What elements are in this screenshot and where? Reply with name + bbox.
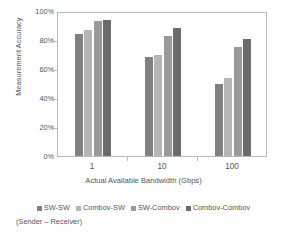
legend-swatch bbox=[37, 206, 42, 211]
x-tick-label: 1 bbox=[72, 162, 112, 171]
plot-area bbox=[57, 12, 267, 157]
legend-item: Combov-SW bbox=[76, 203, 125, 212]
bar bbox=[173, 28, 181, 156]
bar bbox=[84, 30, 92, 156]
legend-label: SW-SW bbox=[44, 203, 70, 212]
bar-group bbox=[75, 13, 112, 156]
bar bbox=[243, 39, 251, 156]
legend: SW-SWCombov-SWSW-CombovCombov-Combov bbox=[0, 203, 287, 212]
bar bbox=[164, 36, 172, 156]
y-tick-label: 20% bbox=[22, 123, 54, 132]
bar bbox=[103, 20, 111, 156]
bar-group bbox=[215, 13, 252, 156]
bar-chart-figure: Measurement Accuracy 0%20%40%60%80%100% … bbox=[0, 0, 287, 241]
bar bbox=[145, 57, 153, 156]
bar bbox=[224, 78, 232, 156]
x-tick-mark bbox=[197, 157, 198, 161]
x-tick-label: 10 bbox=[142, 162, 182, 171]
bar bbox=[215, 84, 223, 157]
legend-label: Combov-Combov bbox=[193, 203, 251, 212]
bar bbox=[154, 55, 162, 157]
y-tick-label: 60% bbox=[22, 65, 54, 74]
legend-item: Combov-Combov bbox=[186, 203, 251, 212]
legend-label: Combov-SW bbox=[83, 203, 125, 212]
x-axis-title: Actual Available Bandwidth (Gbps) bbox=[0, 176, 287, 185]
legend-label: SW-Combov bbox=[138, 203, 180, 212]
bar bbox=[75, 34, 83, 156]
x-tick-label: 100 bbox=[212, 162, 252, 171]
legend-item: SW-Combov bbox=[131, 203, 180, 212]
y-tick-label: 40% bbox=[22, 94, 54, 103]
legend-item: SW-SW bbox=[37, 203, 70, 212]
y-tick-label: 100% bbox=[22, 7, 54, 16]
bar-group bbox=[145, 13, 182, 156]
x-tick-mark bbox=[127, 157, 128, 161]
y-tick-label: 80% bbox=[22, 36, 54, 45]
bar bbox=[234, 47, 242, 156]
legend-subtitle: (Sender – Receiver) bbox=[16, 217, 82, 226]
bar-series-container bbox=[58, 13, 266, 156]
legend-swatch bbox=[76, 206, 81, 211]
bar bbox=[94, 21, 102, 156]
y-tick-label: 0% bbox=[22, 152, 54, 161]
legend-swatch bbox=[186, 206, 191, 211]
legend-swatch bbox=[131, 206, 136, 211]
